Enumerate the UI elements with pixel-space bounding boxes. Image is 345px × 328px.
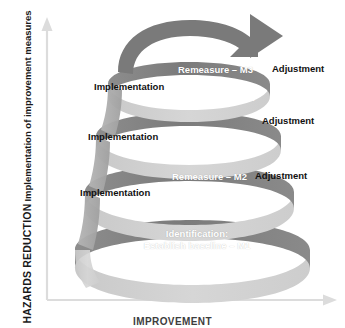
spiral-diagram-figure: HAZARDS REDUCTION Implementation of impr… [0,0,345,328]
y-axis-label: HAZARDS REDUCTION Implementation of impr… [10,57,44,277]
spiral-graphic [0,0,345,328]
y-axis-title: HAZARDS REDUCTION [21,204,33,324]
y-axis-subtitle: Implementation of improvement measures [22,10,33,201]
x-axis-title: IMPROVEMENT [0,316,345,327]
